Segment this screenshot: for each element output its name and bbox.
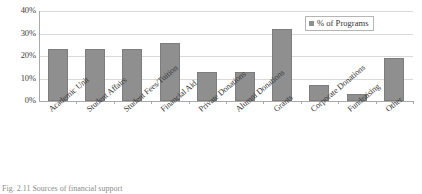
x-axis-category-label: Other xyxy=(384,95,404,114)
legend-label: % of Programs xyxy=(317,18,369,28)
x-axis-category-label: Grants xyxy=(272,93,294,114)
x-axis-category-label: Academic Unit xyxy=(47,75,91,114)
legend-swatch-icon xyxy=(309,21,314,26)
x-axis-category-label: Fundraising xyxy=(346,82,382,114)
figure-caption: Fig. 2.11 Sources of financial support xyxy=(2,184,202,194)
chart-legend: % of Programs xyxy=(305,16,374,31)
bar-chart-figure: 0%10%20%30%40% Academic UnitStudent Affa… xyxy=(0,0,422,194)
x-axis-category-label: Financial Aid xyxy=(159,79,199,114)
